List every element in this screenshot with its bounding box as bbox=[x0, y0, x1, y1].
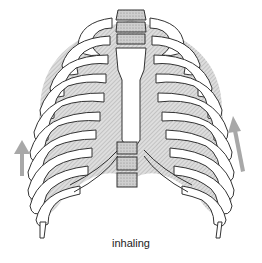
rib-cage-illustration bbox=[0, 0, 262, 263]
caption: inhaling bbox=[0, 237, 262, 249]
lower-vertebrae bbox=[117, 142, 137, 187]
upper-vertebrae bbox=[116, 10, 146, 44]
left-arrow-icon bbox=[14, 140, 30, 176]
